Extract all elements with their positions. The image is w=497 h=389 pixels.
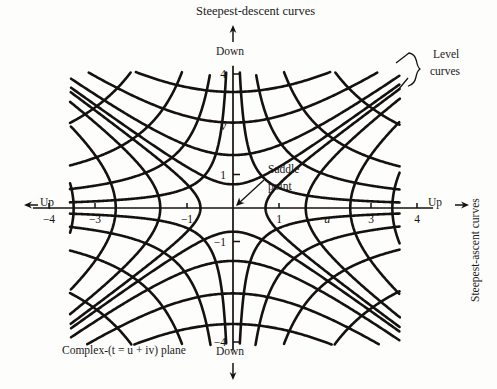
top-title-steepest-descent: Steepest-descent curves	[196, 4, 315, 19]
v-axis-variable-label: v	[221, 119, 227, 133]
right-title-steepest-ascent: Steepest-ascent curves	[469, 198, 481, 302]
level-curves-brace-tail-upper	[396, 53, 409, 63]
x-tick-label: 1	[276, 213, 282, 225]
level-curves-label-line2: curves	[430, 65, 460, 77]
saddle-point-label-line1: Saddle	[268, 163, 299, 175]
y-tick-label: 4	[220, 68, 226, 80]
level-curves-brace	[409, 53, 421, 86]
saddle-point-figure: −4−3−113441−1−4uv	[0, 0, 497, 389]
up-label-left: Up	[40, 196, 54, 208]
x-tick-label: −4	[43, 213, 55, 225]
level-curves-label-line1: Level	[433, 48, 459, 60]
y-tick-label: 1	[220, 169, 226, 181]
steepest-descent-curve	[71, 85, 399, 185]
y-tick-label: −1	[214, 236, 226, 248]
saddle-point-label-line2: point	[268, 180, 292, 192]
caption-text: Complex-(t = u + iv) plane	[62, 344, 186, 356]
x-tick-label: 4	[414, 213, 420, 225]
x-tick-label: −1	[181, 213, 193, 225]
x-tick-label: −3	[89, 213, 101, 225]
up-label-right: Up	[428, 196, 442, 208]
level-curve	[335, 73, 399, 125]
u-axis-variable-label: u	[324, 212, 330, 226]
down-label-top: Down	[216, 45, 244, 57]
down-label-bottom: Down	[216, 345, 244, 357]
x-tick-label: 3	[368, 213, 374, 225]
steepest-descent-curve	[71, 232, 399, 332]
figure-caption: Complex-(t = u + iv) plane	[62, 344, 186, 356]
